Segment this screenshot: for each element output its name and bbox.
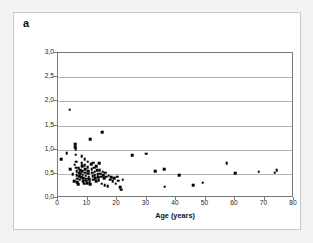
scatter-point	[106, 185, 109, 188]
scatter-point	[131, 154, 134, 157]
y-axis-tick-label: 2,5	[28, 73, 54, 80]
scatter-point	[89, 183, 92, 186]
y-axis-tick-label: 3,0	[28, 49, 54, 56]
y-axis-tick-labels: 0,00,51,01,52,02,53,0	[26, 52, 54, 197]
scatter-point	[66, 152, 69, 155]
x-axis-title: Age (years)	[57, 212, 293, 219]
figure-container: a 0,00,51,01,52,02,53,0 0102030405060708…	[0, 0, 313, 243]
y-axis-tick-label: 2,0	[28, 97, 54, 104]
x-axis-tick-mark	[205, 197, 206, 200]
y-axis-tick-mark	[53, 100, 57, 101]
scatter-points-layer	[58, 53, 292, 196]
scatter-point	[74, 148, 77, 151]
scatter-point	[74, 153, 77, 156]
scatter-point	[95, 165, 98, 168]
scatter-point	[225, 162, 228, 165]
y-axis-tick-mark	[53, 125, 57, 126]
panel-label: a	[23, 18, 29, 29]
scatter-point	[98, 162, 101, 165]
x-axis-tick-label: 20	[104, 200, 128, 207]
scatter-point	[69, 168, 72, 171]
x-axis-tick-label: 60	[222, 200, 246, 207]
scatter-point	[68, 108, 71, 111]
x-axis-tick-mark	[293, 197, 294, 200]
scatter-point	[192, 184, 195, 187]
scatter-point	[71, 173, 74, 176]
x-axis-tick-label: 10	[75, 200, 99, 207]
scatter-point	[276, 169, 279, 172]
y-axis-tick-mark	[53, 76, 57, 77]
x-axis-tick-mark	[175, 197, 176, 200]
x-axis-tick-mark	[264, 197, 265, 200]
x-axis-tick-label: 50	[193, 200, 217, 207]
y-axis-tick-label: 1,5	[28, 121, 54, 128]
scatter-point	[273, 172, 276, 175]
scatter-point	[101, 131, 104, 134]
x-axis-tick-label: 30	[134, 200, 158, 207]
scatter-point	[154, 170, 157, 173]
y-axis-tick-mark	[53, 52, 57, 53]
x-axis-tick-mark	[146, 197, 147, 200]
scatter-point	[117, 179, 120, 182]
scatter-point	[114, 182, 117, 185]
x-axis-tick-label: 70	[252, 200, 276, 207]
scatter-point	[86, 160, 89, 163]
scatter-point	[60, 158, 63, 161]
scatter-point	[145, 152, 148, 155]
x-axis-tick-mark	[57, 197, 58, 200]
plot-area	[57, 52, 293, 197]
scatter-point	[89, 138, 92, 141]
x-axis-tick-label: 80	[281, 200, 305, 207]
x-axis-tick-label: 40	[163, 200, 187, 207]
scatter-point	[116, 175, 119, 178]
scatter-point	[73, 180, 76, 183]
scatter-point	[87, 166, 90, 169]
scatter-point	[163, 168, 166, 171]
scatter-point	[78, 178, 81, 181]
x-axis-tick-mark	[116, 197, 117, 200]
scatter-point	[257, 171, 260, 174]
x-axis-tick-mark	[87, 197, 88, 200]
x-axis-tick-label: 0	[45, 200, 69, 207]
x-axis-tick-mark	[234, 197, 235, 200]
scatter-point	[75, 160, 78, 163]
scatter-point	[234, 172, 237, 175]
scatter-point	[178, 174, 181, 177]
y-axis-tick-mark	[53, 173, 57, 174]
y-axis-tick-label: 0,5	[28, 170, 54, 177]
scatter-point	[97, 179, 100, 182]
scatter-point	[163, 186, 166, 189]
scatter-point	[120, 188, 123, 191]
scatter-point	[122, 178, 125, 181]
y-axis-tick-mark	[53, 149, 57, 150]
scatter-point	[77, 183, 80, 186]
scatter-point	[104, 172, 107, 175]
scatter-point	[92, 161, 95, 164]
y-axis-tick-label: 1,0	[28, 145, 54, 152]
scatter-point	[201, 181, 204, 184]
